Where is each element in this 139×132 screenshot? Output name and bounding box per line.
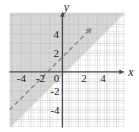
x-tick-label-pos2: 2 [81,72,87,84]
y-axis-label: y [63,0,70,14]
y-tick-label-pos4: 4 [53,28,59,40]
graph-svg: -4 -2 0 2 4 4 2 -2 -4 x y [0,0,139,132]
x-tick-label-zero: 0 [54,72,60,84]
y-tick-label-neg4: -4 [50,104,60,116]
y-tick-label-neg2: -2 [50,85,59,97]
coordinate-plane-figure: -4 -2 0 2 4 4 2 -2 -4 x y [0,0,139,132]
x-axis-label: x [127,65,134,79]
x-tick-label-neg4: -4 [17,72,27,84]
x-tick-label-pos4: 4 [100,72,106,84]
x-tick-label-neg2: -2 [36,72,45,84]
y-tick-label-pos2: 2 [53,47,59,59]
